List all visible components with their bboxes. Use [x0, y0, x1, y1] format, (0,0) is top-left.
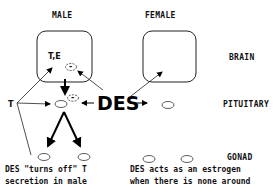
female-gonad-right — [181, 156, 193, 163]
hormone-t-label: T — [8, 100, 14, 109]
pituitary-to-gonad-right-arrow — [64, 112, 80, 146]
male-pituitary — [55, 101, 67, 108]
male-note-line1: DES "turns off" T — [5, 165, 87, 174]
female-note-line2: when there is none around — [130, 176, 251, 186]
brain-inhibit-symbol: - — [69, 62, 72, 71]
female-gonad-left — [143, 156, 155, 163]
t-from-gonad-line — [17, 103, 31, 155]
male-header: MALE — [52, 11, 72, 20]
des-to-female-brain-arrow — [131, 72, 162, 96]
female-brain-box — [143, 31, 196, 82]
des-label: DES — [97, 92, 139, 114]
des-diagram: MALE FEMALE T,E - BRAIN PITUITARY GONAD … — [0, 0, 275, 193]
male-gonad-right — [78, 154, 90, 161]
female-note-line1: DES acts as an estrogen — [130, 165, 241, 174]
level-gonad: GONAD — [227, 153, 253, 162]
des-to-male-brain-arrow — [78, 71, 103, 90]
level-brain: BRAIN — [229, 53, 255, 62]
male-gonad-left — [38, 154, 50, 161]
female-pituitary — [162, 102, 174, 109]
male-brain-hormones: T,E — [48, 52, 61, 61]
level-pituitary: PITUITARY — [223, 100, 269, 109]
t-to-brain-arrow — [17, 68, 52, 103]
pituitary-to-gonad-left-arrow — [48, 112, 64, 146]
t-to-pituitary-arrow — [17, 103, 50, 104]
pituitary-inhibit-symbol: - — [71, 93, 74, 102]
male-note-line2: secretion in male — [5, 176, 87, 186]
female-header: FEMALE — [145, 11, 176, 20]
